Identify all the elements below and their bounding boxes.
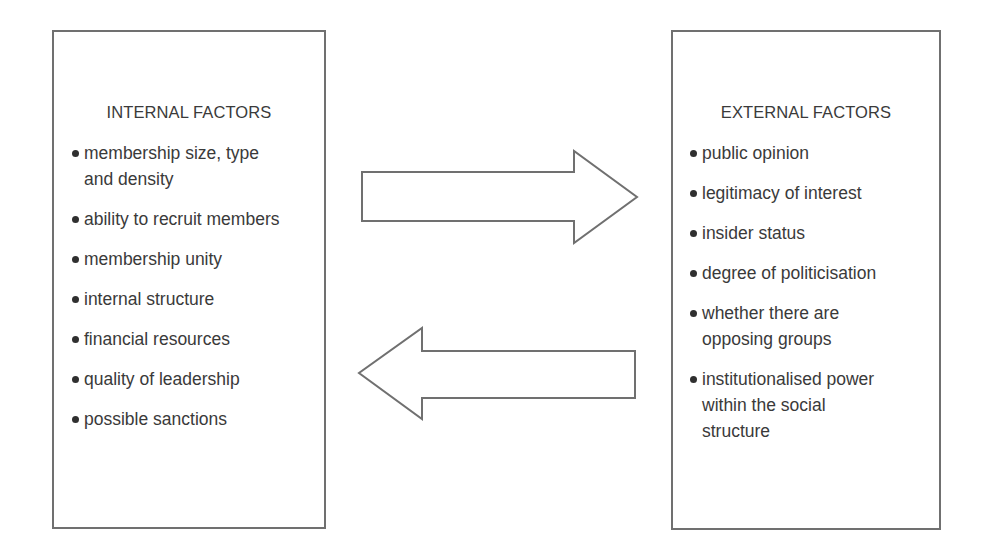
- item-line: whether there are: [702, 300, 929, 326]
- item-line: public opinion: [702, 140, 929, 166]
- item-line: opposing groups: [702, 326, 929, 352]
- list-item: institutionalised power within the socia…: [690, 366, 929, 444]
- item-line: insider status: [702, 220, 929, 246]
- bullet-icon: [690, 230, 697, 237]
- external-factors-list: public opinion legitimacy of interest in…: [690, 140, 929, 458]
- item-line: degree of politicisation: [702, 260, 929, 286]
- list-item: whether there are opposing groups: [690, 300, 929, 352]
- item-line: legitimacy of interest: [702, 180, 929, 206]
- list-item: public opinion: [690, 140, 929, 166]
- list-item: insider status: [690, 220, 929, 246]
- bullet-icon: [690, 270, 697, 277]
- bullet-icon: [690, 310, 697, 317]
- external-factors-box: EXTERNAL FACTORS public opinion legitima…: [671, 30, 941, 530]
- item-line: within the social: [702, 392, 929, 418]
- left-arrow-icon: [359, 328, 635, 419]
- external-factors-title: EXTERNAL FACTORS: [673, 102, 939, 122]
- bullet-icon: [690, 376, 697, 383]
- bullet-icon: [690, 150, 697, 157]
- item-line: institutionalised power: [702, 366, 929, 392]
- bullet-icon: [690, 190, 697, 197]
- list-item: degree of politicisation: [690, 260, 929, 286]
- right-arrow-icon: [362, 151, 637, 243]
- item-line: structure: [702, 418, 929, 444]
- list-item: legitimacy of interest: [690, 180, 929, 206]
